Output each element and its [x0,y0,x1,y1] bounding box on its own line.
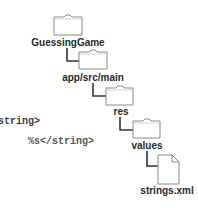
tree-label-res[interactable]: res [113,107,128,117]
tree-connector [93,83,106,96]
folder-icon[interactable] [133,119,160,138]
folder-tree [0,0,198,208]
tree-label-app-src-main[interactable]: app/src/main [62,73,124,83]
tree-label-values[interactable]: values [131,141,162,151]
tree-connector [67,48,79,61]
tree-connector [120,117,133,130]
folder-icon[interactable] [79,50,107,69]
file-icon[interactable] [158,155,179,184]
tree-label-strings-xml[interactable]: strings.xml [140,186,193,196]
folder-icon[interactable] [106,86,133,105]
folder-icon[interactable] [54,15,82,35]
tree-label-guessinggame[interactable]: GuessingGame [31,38,104,48]
tree-connector [147,151,158,166]
